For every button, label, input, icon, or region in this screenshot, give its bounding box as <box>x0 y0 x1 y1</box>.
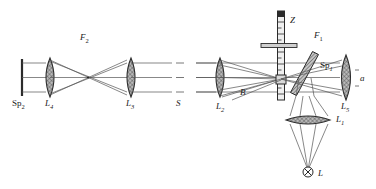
rays-l2-to-scale <box>220 60 281 96</box>
label-s: S <box>176 98 181 108</box>
optics-ray-diagram: F2 Sp2 L4 L3 S Z F1 Sp1 B L2 L5 a L1 L <box>0 0 376 189</box>
rays-right-of-l3 <box>131 63 172 92</box>
lamp-l <box>303 167 313 177</box>
label-b: B <box>240 87 246 97</box>
rays-sp2-to-l4 <box>22 63 46 92</box>
label-l1: L1 <box>335 114 344 126</box>
aperture-a <box>355 70 359 86</box>
aperture-b <box>222 79 281 100</box>
lens-l5 <box>342 55 351 100</box>
label-l4: L4 <box>44 98 54 110</box>
label-l2: L2 <box>215 101 225 113</box>
focal-point-f2 <box>87 76 89 78</box>
slit-s <box>176 63 184 92</box>
label-l5: L5 <box>340 101 350 113</box>
label-f1: F1 <box>313 30 323 42</box>
label-z: Z <box>290 15 296 25</box>
beamsplitter-sp1 <box>291 52 319 96</box>
label-a: a <box>360 73 365 83</box>
label-sp2: Sp2 <box>12 98 25 110</box>
label-sp1: Sp1 <box>320 60 333 72</box>
label-lamp: L <box>317 168 323 178</box>
label-l3: L3 <box>125 98 135 110</box>
lens-l1 <box>286 116 330 124</box>
label-f2: F2 <box>79 32 89 44</box>
